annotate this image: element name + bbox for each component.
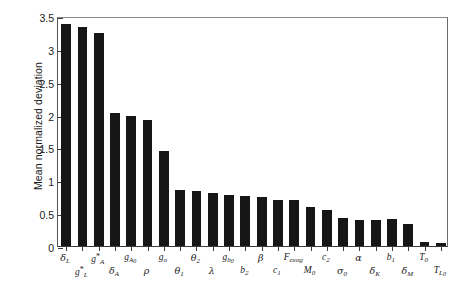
x-axis-tick: [99, 246, 100, 251]
x-axis-tick-label: b1: [387, 252, 395, 264]
bar: [110, 113, 120, 246]
bar: [126, 116, 136, 246]
bar-series: [58, 18, 447, 246]
x-axis-tick-label: c1: [273, 265, 281, 277]
bar-chart-figure: Mean normalized deviation 00.511.522.533…: [0, 0, 471, 300]
x-axis-tick-label: δK: [369, 265, 379, 278]
y-axis-tick-label: 1: [48, 176, 54, 188]
x-axis-tick: [392, 246, 393, 251]
x-axis-tick-label: M0: [304, 265, 315, 277]
x-axis-tick: [245, 246, 246, 251]
x-axis-tick: [327, 246, 328, 251]
x-axis-tick-label: TL0: [434, 265, 446, 277]
y-axis-tick-label: 3: [48, 45, 54, 57]
x-axis-tick-label: g*A: [91, 252, 104, 266]
y-axis-tick-label: 2.5: [39, 78, 54, 90]
x-axis-tick-label: δA: [109, 265, 119, 278]
y-axis-tick-label: 1.5: [39, 143, 54, 155]
x-axis-tick-label: λ: [209, 265, 215, 276]
bar: [289, 200, 299, 246]
x-axis-tick: [115, 246, 116, 251]
x-axis-tick: [311, 246, 312, 251]
x-axis-tick-label: δM: [401, 265, 413, 278]
bar: [192, 191, 202, 246]
bar: [403, 224, 413, 246]
x-axis-tick: [359, 246, 360, 251]
x-axis-tick: [180, 246, 181, 251]
x-axis-tick-label: β: [258, 252, 264, 263]
x-axis-tick-label: α: [355, 252, 361, 263]
bar: [273, 200, 283, 246]
x-axis-tick: [229, 246, 230, 251]
x-axis-tick: [425, 246, 426, 251]
x-axis-tick-label: g*L: [75, 265, 88, 279]
x-axis-tick-label: θ2: [191, 252, 200, 265]
x-axis-tick-label: σ0: [337, 265, 347, 278]
x-axis-tick: [441, 246, 442, 251]
bar: [94, 33, 104, 246]
x-axis-tick-label: θ1: [175, 265, 184, 278]
bar: [338, 218, 348, 246]
y-axis-tick-label: 3.5: [39, 12, 54, 24]
bar: [322, 210, 332, 246]
bar: [355, 220, 365, 246]
x-axis-tick-label: ρ: [144, 265, 150, 276]
bar: [208, 193, 218, 246]
x-axis-tick: [82, 246, 83, 251]
x-axis-tick: [196, 246, 197, 251]
bar: [78, 27, 88, 246]
bar: [224, 195, 234, 246]
x-axis-tick: [66, 246, 67, 251]
x-axis-tick: [408, 246, 409, 251]
x-axis-tick: [294, 246, 295, 251]
bar: [257, 197, 267, 246]
bar: [371, 220, 381, 246]
x-axis-tick: [213, 246, 214, 251]
x-axis-tick: [278, 246, 279, 251]
x-axis-tick-label: δL: [60, 252, 70, 265]
x-axis-tick-label: gb0: [222, 252, 233, 264]
x-axis-tick-label: T0: [419, 252, 428, 264]
x-axis-tick-label: Fexog: [284, 252, 303, 264]
bar: [387, 219, 397, 246]
y-axis-tick-label: 0.5: [39, 209, 54, 221]
x-axis-tick-label: c2: [322, 252, 330, 264]
bar: [306, 207, 316, 246]
bar: [159, 151, 169, 246]
x-axis-tick: [376, 246, 377, 251]
bar: [143, 120, 153, 246]
bar: [175, 190, 185, 247]
y-axis-tick-label: 0: [48, 242, 54, 254]
plot-area: 00.511.522.533.5: [57, 17, 448, 247]
bar: [61, 24, 71, 246]
y-axis-tick-label: 2: [48, 111, 54, 123]
x-axis-tick-label: b2: [240, 265, 248, 277]
x-axis-tick: [148, 246, 149, 251]
y-axis-title: Mean normalized deviation: [32, 26, 44, 226]
x-axis-tick-label: go: [159, 252, 167, 264]
y-axis-tick: 0: [58, 248, 63, 249]
x-axis-tick: [164, 246, 165, 251]
x-axis-tick-label: gA0: [124, 252, 136, 264]
bar: [240, 196, 250, 246]
x-axis-tick: [262, 246, 263, 251]
x-axis-tick: [131, 246, 132, 251]
x-axis-tick: [343, 246, 344, 251]
